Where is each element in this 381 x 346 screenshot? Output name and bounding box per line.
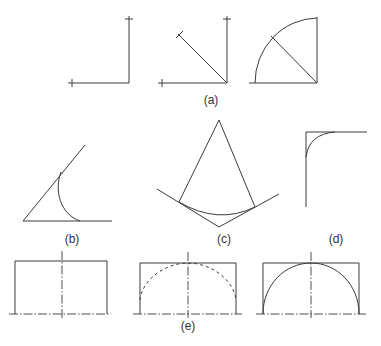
figure-a-step2 bbox=[158, 16, 231, 87]
figure-e-step3 bbox=[256, 252, 366, 318]
label-d: (d) bbox=[329, 232, 344, 246]
radius-line bbox=[179, 120, 219, 202]
fillet-curve bbox=[306, 132, 335, 157]
figure-e-step1 bbox=[9, 251, 111, 318]
x-mark bbox=[176, 31, 183, 38]
figure-b bbox=[23, 145, 112, 221]
figure-a-step1 bbox=[68, 16, 133, 87]
label-c: (c) bbox=[217, 232, 231, 246]
figure-c bbox=[157, 120, 279, 227]
bisector-line bbox=[178, 34, 227, 83]
figure-d bbox=[306, 132, 367, 207]
radius-line bbox=[219, 120, 255, 207]
label-b: (b) bbox=[65, 232, 80, 246]
figure-a-step3 bbox=[249, 17, 317, 83]
tangent-curve bbox=[58, 172, 80, 221]
label-e: (e) bbox=[181, 319, 196, 333]
tangent-line bbox=[219, 194, 279, 227]
figure-e-step2 bbox=[133, 252, 242, 318]
bisector-line bbox=[271, 36, 317, 83]
diagram-canvas bbox=[0, 0, 381, 346]
tangent-line bbox=[157, 189, 219, 227]
label-a: (a) bbox=[204, 93, 219, 107]
